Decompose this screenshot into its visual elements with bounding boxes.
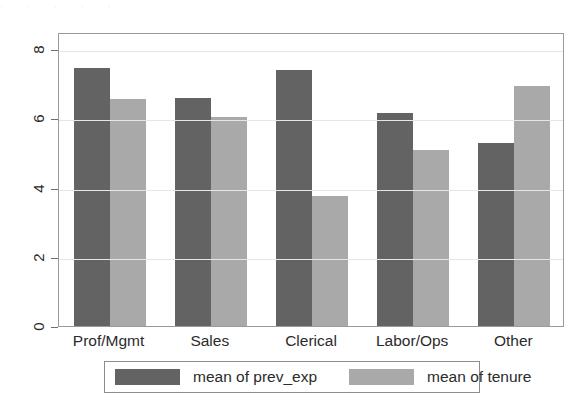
x-axis-label: Labor/Ops — [376, 332, 448, 350]
y-tick-label: 4 — [30, 178, 47, 198]
legend-label-series-b: mean of tenure — [427, 368, 531, 386]
bars-layer — [59, 34, 563, 326]
y-tick-mark — [51, 327, 58, 328]
bar — [211, 117, 247, 326]
bar — [110, 99, 146, 326]
y-tick-mark — [51, 50, 58, 51]
gridline — [59, 190, 563, 191]
bar — [276, 70, 312, 326]
y-tick-label: 0 — [30, 317, 47, 337]
y-tick-mark — [51, 258, 58, 259]
bar — [175, 98, 211, 326]
gridline — [59, 259, 563, 260]
y-tick-label: 8 — [30, 40, 47, 60]
bar — [74, 68, 110, 326]
bar-chart-figure: · · · · · 02468 mean of prev_exp mean of… — [0, 0, 584, 408]
legend-swatch-icon-series-b — [349, 369, 414, 385]
bar — [312, 196, 348, 326]
y-tick-mark — [51, 119, 58, 120]
bar — [377, 113, 413, 326]
y-tick-label: 6 — [30, 109, 47, 129]
x-axis-label: Sales — [190, 332, 229, 350]
plot-area — [58, 33, 564, 327]
x-axis-label: Clerical — [285, 332, 337, 350]
bar — [413, 150, 449, 326]
legend-item-series-b: mean of tenure — [349, 362, 531, 392]
chart-legend: mean of prev_exp mean of tenure — [104, 361, 480, 393]
legend-label-series-a: mean of prev_exp — [193, 368, 317, 386]
bar — [514, 86, 550, 326]
gridline — [59, 51, 563, 52]
bar — [478, 143, 514, 326]
legend-item-series-a: mean of prev_exp — [115, 362, 317, 392]
legend-swatch-icon-series-a — [115, 369, 180, 385]
page-scan-artifact: · · · · · — [0, 0, 584, 9]
x-axis-label: Other — [494, 332, 533, 350]
y-tick-mark — [51, 189, 58, 190]
x-axis-label: Prof/Mgmt — [73, 332, 144, 350]
y-tick-label: 2 — [30, 247, 47, 267]
gridline — [59, 120, 563, 121]
